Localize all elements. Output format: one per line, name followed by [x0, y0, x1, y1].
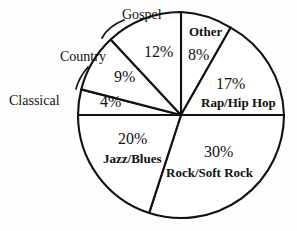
slice-label-rap-hip-hop: Rap/Hip Hop — [201, 96, 276, 109]
slice-label-jazz-blues: Jazz/Blues — [103, 152, 162, 165]
slice-label-other: Other — [189, 25, 222, 38]
pie-chart: 17% Rap/Hip Hop Other 8% 30% Rock/Soft R… — [0, 0, 297, 231]
slice-label-country: Country — [60, 50, 106, 64]
slice-value-country: 9% — [114, 69, 135, 85]
slice-value-classical: 4% — [100, 94, 121, 110]
slice-value-jazz-blues: 20% — [118, 131, 147, 147]
pie-chart-graphic — [0, 0, 297, 231]
slice-value-rap-hip-hop: 17% — [216, 76, 245, 92]
slice-value-gospel: 12% — [144, 44, 173, 60]
slice-label-gospel: Gospel — [122, 8, 162, 22]
slice-value-rock-soft-rock: 30% — [204, 144, 233, 160]
slice-value-other: 8% — [188, 47, 209, 63]
slice-label-classical: Classical — [9, 94, 60, 108]
slice-label-rock-soft-rock: Rock/Soft Rock — [166, 166, 253, 179]
